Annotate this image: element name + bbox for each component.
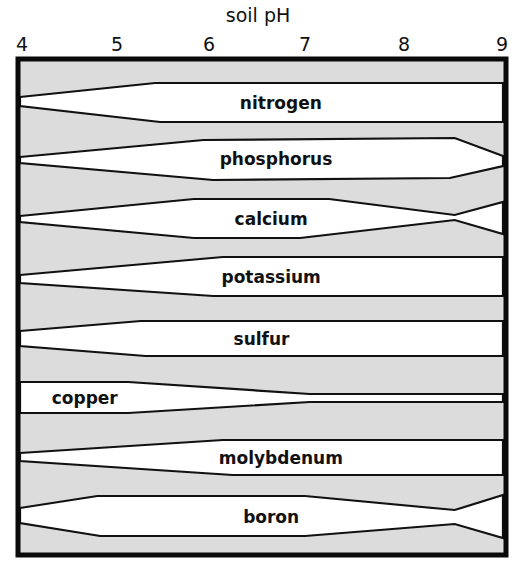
x-tick-label: 5 (111, 33, 123, 55)
nutrient-availability-chart: soil pH 456789 nitrogenphosphoruscalcium… (0, 0, 517, 572)
band-label: calcium (235, 209, 308, 229)
x-tick-label: 6 (203, 33, 215, 55)
x-axis-title: soil pH (226, 4, 290, 26)
band-label: molybdenum (219, 448, 343, 468)
band-label: copper (52, 388, 119, 408)
band-label: sulfur (234, 329, 291, 349)
band-label: potassium (221, 267, 320, 287)
x-tick-label: 8 (398, 33, 410, 55)
x-tick-label: 9 (496, 33, 508, 55)
band-label: nitrogen (240, 93, 322, 113)
band-label: phosphorus (220, 149, 333, 169)
x-tick-label: 7 (299, 33, 311, 55)
plot-background (18, 59, 506, 555)
x-tick-label: 4 (16, 33, 28, 55)
x-axis-ticks: 456789 (16, 33, 508, 55)
band-sulfur: sulfur (20, 321, 503, 356)
band-label: boron (243, 507, 299, 527)
